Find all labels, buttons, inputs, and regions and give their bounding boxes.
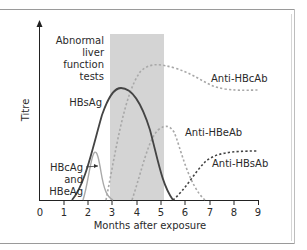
hbsag-label: HBsAg [69, 97, 102, 108]
y-axis-label: Titre [20, 99, 31, 123]
tick-label: 2 [85, 207, 91, 218]
tick-label: 8 [231, 207, 237, 218]
tick-label: 4 [134, 207, 140, 218]
tick-label: 6 [182, 207, 188, 218]
hbcag-label-line1: HBcAg [50, 162, 83, 173]
tick-label: 0 [37, 207, 43, 218]
hbcag-label-line3: HBeAg [49, 186, 83, 197]
tick-label: 3 [109, 207, 115, 218]
anti-hbsab-label: Anti-HBsAb [212, 158, 268, 169]
tick-label: 1 [61, 207, 67, 218]
shaded-label-line2: liver [82, 47, 105, 58]
tick-label: 7 [207, 207, 213, 218]
shaded-label-line4: tests [80, 71, 104, 82]
x-axis-label: Months after exposure [94, 220, 207, 231]
abnormal-lft-shaded-region [110, 34, 164, 200]
anti-hbcab-label: Anti-HBcAb [211, 73, 268, 84]
shaded-label-line3: function [63, 59, 104, 70]
hepatitis-b-serology-chart: 0 1 2 3 4 5 6 7 8 9 Months after exposur… [0, 0, 307, 250]
hbcag-label-line2: and [64, 174, 83, 185]
tick-label: 5 [158, 207, 164, 218]
tick-label: 9 [255, 207, 261, 218]
shaded-label-line1: Abnormal [56, 35, 104, 46]
anti-hbeab-label: Anti-HBeAb [185, 127, 242, 138]
